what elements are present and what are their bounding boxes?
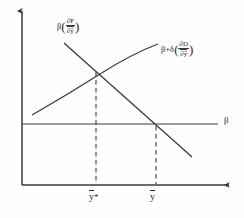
curve-label-beta-dF-dy: β( ∂F ∂ȳ ) (57, 17, 79, 35)
curve-label-right-fraction: ∂D ∂ȳ (178, 40, 189, 58)
curve-label-right-numerator: ∂D (178, 40, 189, 48)
curve-label-left-close-paren: ) (75, 19, 79, 34)
tick-label-ystar: y* (89, 190, 99, 202)
curve-label-beta-delta-dD-dy: β+δ( ∂D ∂ȳ ) (161, 40, 193, 58)
upward-concave-curve (32, 44, 158, 115)
tick-label-ybar-base: y (150, 190, 155, 202)
tick-label-ystar-suffix: * (94, 192, 99, 202)
tick-label-ybar: y (150, 190, 155, 202)
figure-container: β( ∂F ∂ȳ ) β+δ( ∂D ∂ȳ ) β y* y (0, 0, 244, 218)
curve-label-left-numerator: ∂F (66, 17, 75, 25)
tick-label-ystar-base: y (89, 190, 94, 202)
curve-label-left-fraction: ∂F ∂ȳ (66, 17, 75, 35)
beta-axis-label: β (224, 116, 229, 125)
curve-label-right-close-paren: ) (189, 42, 193, 57)
curve-label-right-prefix: β+δ (161, 45, 174, 54)
diagram-canvas (0, 0, 244, 218)
downward-sloping-line (64, 43, 192, 157)
curve-label-right-denominator: ∂ȳ (180, 49, 187, 58)
curve-label-left-denominator: ∂ȳ (67, 26, 74, 35)
